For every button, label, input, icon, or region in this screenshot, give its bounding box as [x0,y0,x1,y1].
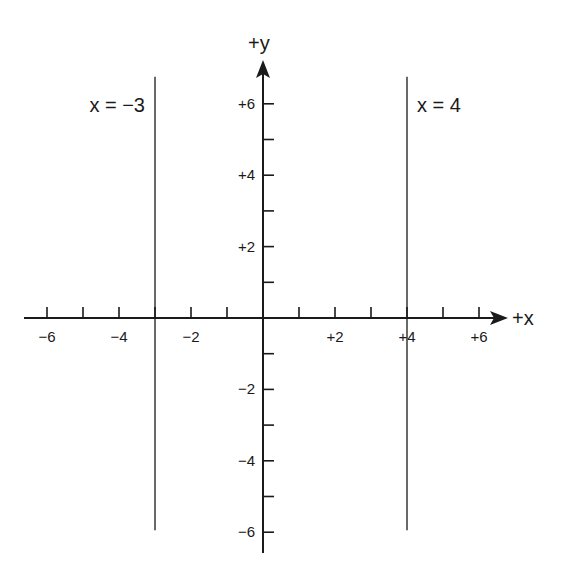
y-tick-label: −2 [238,380,255,397]
y-tick-label: +2 [238,238,255,255]
line-label: x = 4 [417,94,461,116]
coordinate-plane: −6−4−2+2+4+6 +6+4+2−2−4−6 x = −3x = 4 +x… [0,0,568,570]
x-axis-label: +x [512,307,534,329]
y-axis-label: +y [248,32,270,54]
y-axis [256,60,270,553]
y-tick-label: +4 [238,166,255,183]
x-tick-label: −2 [182,328,199,345]
y-tick-label: −6 [238,523,255,540]
line-label: x = −3 [89,94,145,116]
x-tick-label: −6 [38,328,55,345]
y-tick-label: +6 [238,95,255,112]
x-tick-label: +6 [470,328,487,345]
vertical-lines: x = −3x = 4 [89,77,461,530]
x-tick-label: +2 [326,328,343,345]
y-tick-label: −4 [238,452,255,469]
x-tick-label: −4 [110,328,127,345]
x-axis [24,311,508,325]
